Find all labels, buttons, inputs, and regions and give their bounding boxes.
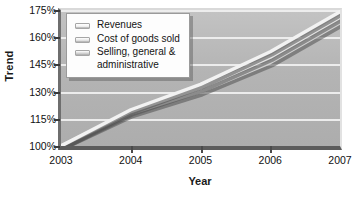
chart-legend: RevenuesCost of goods soldSelling, gener… [66,13,190,78]
x-axis-tick-labels: 20032004200520062007 [58,154,342,170]
x-axis-tick-label: 2004 [108,154,154,166]
y-axis-tick-mark [54,119,60,121]
x-axis-tick-mark [201,146,203,153]
legend-item[interactable]: Selling, general & administrative [74,46,183,71]
y-axis-tick-label: 160% [14,31,56,43]
legend-item-label: Revenues [97,19,142,32]
y-axis-tick-mark [54,37,60,39]
x-axis-tick-label: 2005 [178,154,224,166]
legend-swatch-icon [75,23,90,29]
y-axis-tick-mark [54,92,60,94]
y-axis-tick-label: 145% [14,58,56,70]
legend-swatch-icon [75,50,90,56]
y-axis-tick-label: 115% [14,113,56,125]
x-axis-tick-label: 2003 [38,154,84,166]
x-axis-tick-mark [270,146,272,153]
y-axis-tick-labels: 100%115%130%145%160%175% [14,8,56,149]
x-axis-tick-label: 2006 [247,154,293,166]
legend-swatch-icon [75,37,90,43]
y-axis-tick-label: 100% [14,140,56,152]
legend-item[interactable]: Cost of goods sold [74,33,183,46]
legend-item[interactable]: Revenues [74,19,183,32]
y-axis-tick-mark [54,64,60,66]
x-axis-ticks [58,146,342,154]
x-axis-tick-label: 2007 [317,154,356,166]
legend-item-label: Selling, general & administrative [97,46,175,71]
y-axis-tick-label: 175% [14,4,56,16]
x-axis-title: Year [58,175,342,187]
x-axis-tick-mark [131,146,133,153]
y-axis-tick-mark [54,10,60,12]
legend-item-label: Cost of goods sold [97,33,180,46]
y-axis-tick-label: 130% [14,86,56,98]
